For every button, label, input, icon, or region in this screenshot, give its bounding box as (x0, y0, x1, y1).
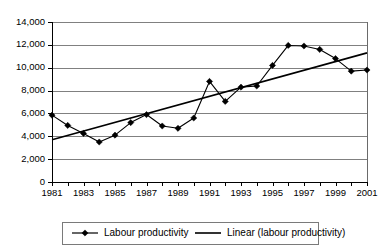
plot-frame (52, 22, 368, 183)
data-point-1982 (65, 122, 71, 128)
x-axis-ticks (53, 182, 368, 186)
data-point-1998 (317, 46, 323, 52)
data-point-1984 (96, 139, 102, 145)
x-tick-label-1993: 1993 (230, 187, 251, 198)
x-tick-label-1987: 1987 (136, 187, 157, 198)
x-tick-label-1989: 1989 (167, 187, 188, 198)
y-tick-label-4000: 4,000 (21, 130, 45, 141)
data-point-1997 (301, 43, 307, 49)
x-tick-label-1981: 1981 (41, 187, 62, 198)
y-axis-tick-labels: 02,0004,0006,0008,00010,00012,00014,000 (16, 16, 45, 187)
x-tick-label-1985: 1985 (104, 187, 125, 198)
data-point-1990 (191, 115, 197, 121)
x-tick-label-1983: 1983 (73, 187, 94, 198)
y-tick-label-10000: 10,000 (16, 61, 45, 72)
y-tick-label-14000: 14,000 (16, 16, 45, 27)
legend-label-linear-labour-productivity: Linear (labour productivity) (227, 227, 345, 238)
chart-legend: Labour productivityLinear (labour produc… (63, 223, 346, 245)
labour-productivity-chart: 02,0004,0006,0008,00010,00012,00014,000 … (0, 0, 380, 251)
y-tick-label-2000: 2,000 (21, 153, 45, 164)
trend-line-path (52, 53, 367, 140)
y-tick-label-6000: 6,000 (21, 107, 45, 118)
series-linear-labour-productivity (52, 53, 367, 140)
x-tick-label-1991: 1991 (199, 187, 220, 198)
y-axis-ticks (48, 23, 52, 183)
series-markers (49, 42, 370, 145)
data-point-1981 (49, 112, 55, 118)
y-tick-label-0: 0 (40, 176, 45, 187)
x-tick-label-1995: 1995 (262, 187, 283, 198)
x-tick-label-1997: 1997 (293, 187, 314, 198)
chart-canvas: 02,0004,0006,0008,00010,00012,00014,000 … (0, 0, 380, 251)
legend-label-labour-productivity: Labour productivity (104, 227, 189, 238)
y-tick-label-12000: 12,000 (16, 38, 45, 49)
x-tick-label-1999: 1999 (325, 187, 346, 198)
x-axis-tick-labels: 1981198319851987198919911993199519971999… (41, 187, 377, 198)
x-tick-label-2001: 2001 (356, 187, 377, 198)
data-point-1989 (175, 125, 181, 131)
y-tick-label-8000: 8,000 (21, 84, 45, 95)
